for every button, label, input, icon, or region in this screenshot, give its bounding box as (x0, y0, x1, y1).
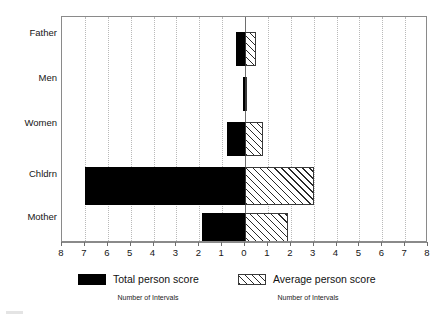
x-tick-label-10: 2 (282, 247, 298, 258)
x-tick-label-0: 8 (53, 247, 69, 258)
x-tick-label-11: 3 (305, 247, 321, 258)
x-tick-label-13: 5 (350, 247, 366, 258)
x-tick-label-8: 0 (236, 247, 252, 258)
bar-row-women (62, 122, 426, 156)
x-tick-4 (153, 242, 154, 246)
x-tick-11 (313, 242, 314, 246)
bar-row-mother (62, 213, 426, 242)
x-tick-15 (404, 242, 405, 246)
bar-row-father (62, 32, 426, 66)
page-edge-artifact (6, 311, 23, 314)
y-axis-label-men: Men (2, 73, 57, 83)
x-tick-1 (84, 242, 85, 246)
x-tick-label-6: 2 (190, 247, 206, 258)
axis-caption-right: Number of Intervals (248, 293, 368, 302)
legend-label-average-person-score: Average person score (273, 273, 376, 285)
x-tick-16 (427, 242, 428, 246)
x-tick-label-15: 7 (396, 247, 412, 258)
bar-total-mother (202, 213, 245, 242)
x-tick-label-5: 3 (167, 247, 183, 258)
y-axis-label-chldrn: Chldrn (2, 169, 57, 179)
x-tick-9 (267, 242, 268, 246)
legend-entry-average-person-score: Average person score (238, 272, 376, 286)
x-tick-label-3: 5 (122, 247, 138, 258)
x-tick-3 (130, 242, 131, 246)
axis-caption-left: Number of Intervals (88, 293, 208, 302)
x-tick-label-1: 7 (76, 247, 92, 258)
plot-area (61, 16, 427, 242)
x-tick-7 (221, 242, 222, 246)
bar-row-men (62, 77, 426, 111)
x-tick-5 (175, 242, 176, 246)
x-tick-6 (198, 242, 199, 246)
bar-total-chldrn (85, 167, 245, 205)
x-tick-label-16: 8 (419, 247, 435, 258)
x-tick-0 (61, 242, 62, 246)
chart-legend: Total person score Average person score … (0, 272, 438, 318)
x-tick-label-9: 1 (259, 247, 275, 258)
x-tick-2 (107, 242, 108, 246)
x-tick-14 (381, 242, 382, 246)
x-tick-10 (290, 242, 291, 246)
bar-average-men (245, 77, 247, 111)
x-tick-label-7: 1 (213, 247, 229, 258)
y-axis-label-women: Women (2, 118, 57, 128)
bar-average-mother (245, 213, 288, 242)
bar-average-father (245, 32, 256, 66)
x-tick-label-12: 4 (328, 247, 344, 258)
y-axis-label-father: Father (2, 28, 57, 38)
legend-label-total-person-score: Total person score (113, 273, 199, 285)
x-tick-label-4: 4 (145, 247, 161, 258)
solid-black-swatch-icon (78, 274, 106, 285)
bar-average-chldrn (245, 167, 314, 205)
bar-chart: Father Men Women Chldrn Mother (0, 0, 438, 318)
hatched-swatch-icon (238, 274, 266, 285)
bar-total-women (227, 122, 245, 156)
legend-entry-total-person-score: Total person score (78, 272, 199, 286)
x-tick-13 (358, 242, 359, 246)
bar-total-father (236, 32, 245, 66)
y-axis-label-mother: Mother (2, 212, 57, 222)
x-tick-8 (244, 242, 245, 246)
bar-row-chldrn (62, 167, 426, 205)
x-tick-label-2: 6 (99, 247, 115, 258)
x-tick-label-14: 6 (373, 247, 389, 258)
x-tick-12 (336, 242, 337, 246)
bar-average-women (245, 122, 263, 156)
